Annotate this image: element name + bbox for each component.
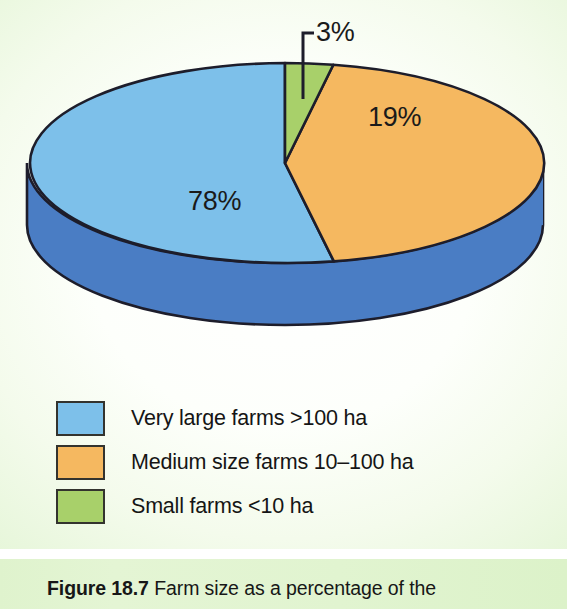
figure-caption-label: Figure 18.7 (47, 577, 149, 599)
legend-label-very-large-farms: Very large farms >100 ha (131, 406, 367, 431)
legend-label-small-farms: Small farms <10 ha (131, 494, 313, 519)
legend-item-medium-farms[interactable]: Medium size farms 10–100 ha (56, 440, 516, 484)
legend-swatch-small-farms (56, 489, 105, 524)
slice-label-medium-farms: 19% (368, 102, 421, 133)
chart-legend: Very large farms >100 ha Medium size far… (56, 396, 516, 528)
figure-caption-body: Farm size as a percentage of the (149, 577, 436, 599)
legend-label-medium-farms: Medium size farms 10–100 ha (131, 450, 414, 475)
figure-container: 78% 19% 3% Very large farms >100 ha Medi… (0, 0, 567, 609)
pie-chart (0, 0, 567, 400)
legend-item-very-large-farms[interactable]: Very large farms >100 ha (56, 396, 516, 440)
panel-divider (0, 549, 567, 559)
legend-item-small-farms[interactable]: Small farms <10 ha (56, 484, 516, 528)
figure-caption: Figure 18.7 Farm size as a percentage of… (47, 577, 436, 600)
slice-label-very-large-farms: 78% (188, 186, 241, 217)
slice-label-small-farms: 3% (316, 17, 354, 48)
legend-swatch-medium-farms (56, 445, 105, 480)
legend-swatch-very-large-farms (56, 401, 105, 436)
